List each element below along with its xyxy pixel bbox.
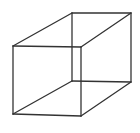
wireframe-cube-diagram — [0, 0, 140, 133]
bottom-left-depth-edge — [13, 81, 72, 114]
front-top-edge — [13, 46, 81, 47]
top-right-depth-edge — [81, 13, 131, 47]
front-bottom-edge — [13, 114, 81, 116]
cube-edges — [13, 13, 131, 116]
bottom-right-depth-edge — [81, 82, 131, 116]
top-left-depth-edge — [13, 13, 72, 46]
